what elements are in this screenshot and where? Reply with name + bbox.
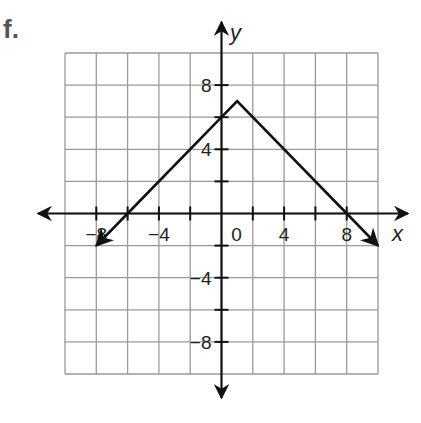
tick-labels: −8−404884−4−8xy (85, 20, 404, 353)
x-tick-label: 8 (341, 224, 352, 245)
x-tick-label: 0 (231, 224, 242, 245)
x-axis-label: x (391, 221, 404, 246)
x-tick-label: −4 (148, 224, 170, 245)
y-tick-label: −8 (190, 332, 212, 353)
x-tick-label: −8 (85, 224, 107, 245)
y-tick-label: 8 (201, 75, 212, 96)
y-tick-label: −4 (190, 268, 212, 289)
x-tick-label: 4 (279, 224, 290, 245)
y-tick-label: 4 (201, 139, 212, 160)
coordinate-plane-chart: −8−404884−4−8xy (0, 0, 421, 423)
y-axis-label: y (228, 20, 243, 45)
